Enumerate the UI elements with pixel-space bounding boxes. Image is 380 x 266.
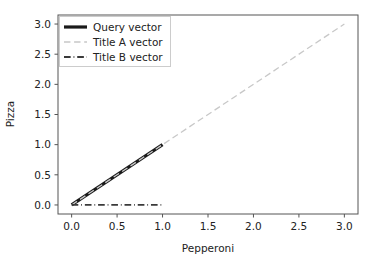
x-axis-ticks: 0.00.51.01.52.02.53.0 xyxy=(63,214,352,232)
legend-label-title-b-vector: Title B vector xyxy=(92,51,163,63)
y-tick-label: 3.0 xyxy=(34,18,51,30)
chart-figure: 0.00.51.01.52.02.53.0 0.00.51.01.52.02.5… xyxy=(0,0,380,266)
chart-legend: Query vector Title A vector Title B vect… xyxy=(60,17,171,67)
x-axis-title: Pepperoni xyxy=(182,242,234,254)
x-tick-label: 1.5 xyxy=(200,220,217,232)
chart-canvas: 0.00.51.01.52.02.53.0 0.00.51.01.52.02.5… xyxy=(0,0,380,266)
y-tick-label: 2.0 xyxy=(34,78,51,90)
x-tick-label: 3.0 xyxy=(336,220,353,232)
y-axis-ticks: 0.00.51.01.52.02.53.0 xyxy=(34,18,58,211)
y-axis-title: Pizza xyxy=(4,101,16,127)
x-tick-label: 0.5 xyxy=(109,220,126,232)
y-tick-label: 1.0 xyxy=(34,138,51,150)
x-tick-label: 2.0 xyxy=(245,220,262,232)
x-tick-label: 1.0 xyxy=(154,220,171,232)
x-tick-label: 0.0 xyxy=(63,220,80,232)
legend-label-title-a-vector: Title A vector xyxy=(92,36,163,48)
y-tick-label: 0.5 xyxy=(34,169,51,181)
legend-label-query-vector: Query vector xyxy=(93,21,162,33)
y-tick-label: 0.0 xyxy=(34,199,51,211)
x-tick-label: 2.5 xyxy=(291,220,308,232)
y-tick-label: 1.5 xyxy=(34,108,51,120)
y-tick-label: 2.5 xyxy=(34,48,51,60)
